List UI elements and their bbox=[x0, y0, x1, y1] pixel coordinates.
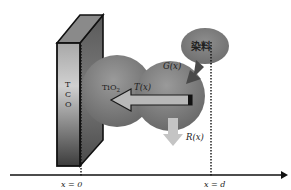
tio2-particles bbox=[81, 55, 205, 131]
x-axis: x = 0 x = d bbox=[10, 171, 288, 189]
tco-label-t: T bbox=[65, 80, 71, 89]
tco-label-c: C bbox=[65, 90, 71, 99]
generation-label: G(x) bbox=[163, 61, 181, 71]
tio2-electrode-diagram: T C O 染料 G(x) T(x) TiO2 R(x) x = 0 x = d bbox=[0, 0, 291, 190]
dye-molecule: 染料 bbox=[181, 28, 229, 64]
dye-label: 染料 bbox=[190, 40, 211, 52]
tco-front: T C O bbox=[57, 43, 80, 166]
transport-label: T(x) bbox=[134, 82, 151, 92]
axis-label-x0: x = 0 bbox=[61, 180, 82, 189]
axis-label-xd: x = d bbox=[204, 180, 225, 189]
recombination-label: R(x) bbox=[185, 132, 204, 142]
axis-arrowhead-icon bbox=[281, 171, 288, 179]
tco-label-o: O bbox=[65, 100, 72, 109]
